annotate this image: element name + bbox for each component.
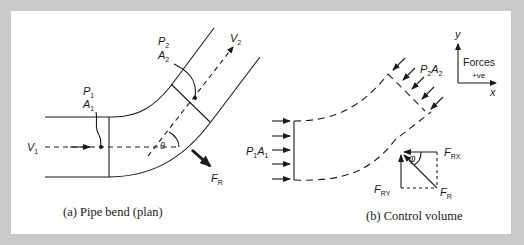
label-phi: φ	[409, 153, 416, 164]
label-y-axis: y	[454, 28, 462, 40]
label-p1: P1	[83, 85, 94, 99]
label-fr: FR	[211, 172, 223, 186]
label-p1a1: P1A1	[246, 145, 269, 159]
label-a1: A1	[82, 98, 94, 112]
label-theta: θ	[160, 141, 165, 151]
caption-b: (b) Control volume	[366, 209, 463, 223]
label-positive: +ve	[472, 71, 486, 80]
cv-bottom-dashed	[294, 112, 431, 180]
panel-a-labels: P1 A1 P2 A2 V1 V2 θ FR (a) Pipe bend (pl…	[27, 32, 241, 219]
label-v2: V2	[230, 32, 241, 46]
cv-top-dashed	[294, 74, 388, 121]
section-2-line	[171, 84, 210, 122]
caption-a: (a) Pipe bend (plan)	[63, 205, 163, 219]
outlet-face	[388, 74, 425, 111]
label-p2: P2	[158, 35, 169, 49]
theta-arc	[169, 132, 179, 147]
label-p2a2: P2A2	[420, 63, 443, 77]
label-forces: Forces	[463, 56, 495, 68]
label-x-axis: x	[489, 86, 496, 98]
label-frx: FRX	[444, 146, 461, 160]
v2-centreline	[148, 47, 233, 156]
pipe-bend-diagram: P1 A1 P2 A2 V1 V2 θ FR (a) Pipe bend (pl…	[0, 0, 524, 245]
label-fry: FRY	[374, 183, 391, 197]
fr-arrow	[192, 150, 210, 166]
label-v1: V1	[27, 141, 38, 155]
p2-a2-leader	[174, 64, 195, 98]
pipe-bend-plan	[45, 28, 260, 177]
label-a2: A2	[157, 49, 169, 63]
label-fr-b: FR	[440, 186, 452, 200]
